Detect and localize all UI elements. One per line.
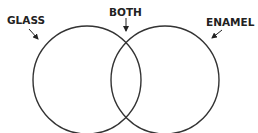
glass-arrow-icon — [29, 29, 38, 39]
enamel-label: ENAMEL — [206, 16, 255, 28]
enamel-arrow-icon — [212, 30, 222, 38]
venn-diagram: GLASS BOTH ENAMEL — [0, 0, 258, 133]
both-label: BOTH — [109, 6, 142, 18]
glass-label: GLASS — [7, 14, 45, 26]
